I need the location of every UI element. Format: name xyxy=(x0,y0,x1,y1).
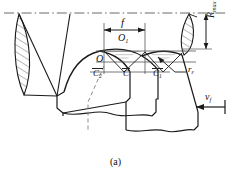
label-nose-radius: rε xyxy=(188,65,194,74)
label-point-C1: C1 xyxy=(152,68,163,78)
label-feed-velocity: vf xyxy=(205,92,211,102)
label-point-C: C xyxy=(122,68,130,78)
label-feed: f xyxy=(121,17,124,28)
label-point-C2: C2 xyxy=(92,68,103,78)
workpiece-body xyxy=(57,55,198,132)
figure-container: f O1 O C2 C C1 rε Rmax vf (a) xyxy=(0,0,231,178)
label-roughness-rmax: Rmax xyxy=(206,2,216,18)
tool-section-left xyxy=(15,14,30,95)
label-nose-radius-base: r xyxy=(188,64,192,74)
label-roughness-base: R xyxy=(205,12,216,18)
label-roughness-sub: max xyxy=(210,2,217,12)
label-point-C2-sub: 2 xyxy=(99,73,102,79)
label-point-C1-sub: 1 xyxy=(159,73,162,79)
label-feed-velocity-sub: f xyxy=(209,96,211,103)
label-center-O1: O1 xyxy=(118,33,128,43)
label-center-O: O xyxy=(96,54,103,64)
figure-caption: (a) xyxy=(0,156,231,167)
label-center-O1-sub: 1 xyxy=(125,37,128,44)
label-nose-radius-sub: ε xyxy=(192,69,194,75)
diagram-canvas xyxy=(0,0,231,178)
